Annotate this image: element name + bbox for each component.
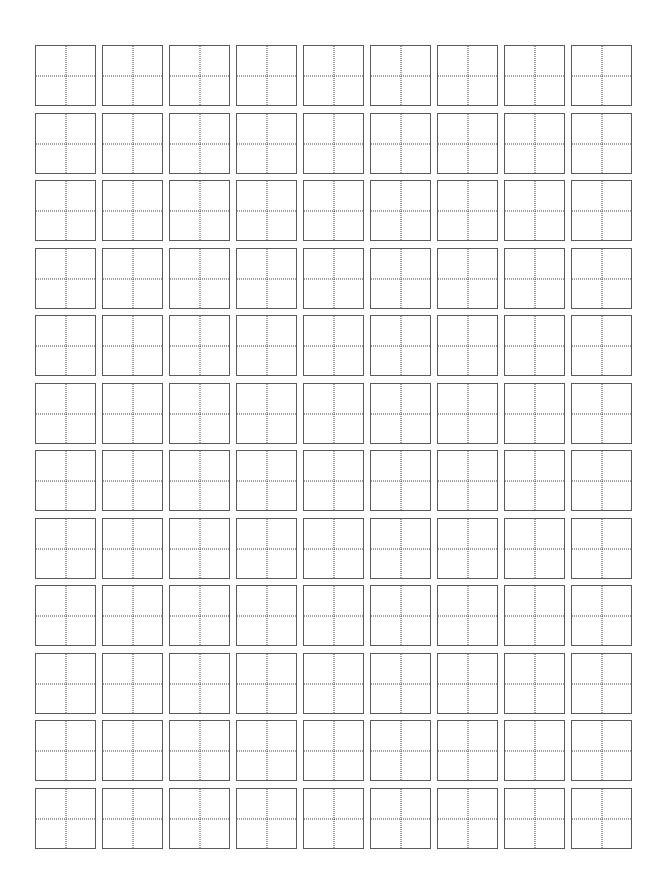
horizontal-guide-line <box>371 615 430 616</box>
horizontal-guide-line <box>103 750 162 751</box>
practice-cell <box>35 383 96 444</box>
practice-cell <box>102 113 163 174</box>
horizontal-guide-line <box>572 750 631 751</box>
horizontal-guide-line <box>572 345 631 346</box>
horizontal-guide-line <box>103 480 162 481</box>
horizontal-guide-line <box>438 75 497 76</box>
practice-cell <box>437 45 498 106</box>
horizontal-guide-line <box>170 210 229 211</box>
practice-cell <box>236 788 297 849</box>
practice-cell <box>303 113 364 174</box>
horizontal-guide-line <box>371 683 430 684</box>
horizontal-guide-line <box>36 345 95 346</box>
practice-cell <box>236 45 297 106</box>
practice-cell <box>303 45 364 106</box>
practice-cell <box>102 315 163 376</box>
practice-cell <box>504 315 565 376</box>
practice-cell <box>35 653 96 714</box>
practice-cell <box>437 180 498 241</box>
horizontal-guide-line <box>170 345 229 346</box>
horizontal-guide-line <box>36 750 95 751</box>
horizontal-guide-line <box>36 480 95 481</box>
horizontal-guide-line <box>237 750 296 751</box>
horizontal-guide-line <box>170 75 229 76</box>
horizontal-guide-line <box>371 548 430 549</box>
practice-cell <box>169 720 230 781</box>
practice-cell <box>370 788 431 849</box>
horizontal-guide-line <box>438 683 497 684</box>
horizontal-guide-line <box>505 75 564 76</box>
horizontal-guide-line <box>103 683 162 684</box>
horizontal-guide-line <box>36 413 95 414</box>
practice-cell <box>437 113 498 174</box>
practice-cell <box>571 788 632 849</box>
horizontal-guide-line <box>36 548 95 549</box>
practice-cell <box>370 180 431 241</box>
horizontal-guide-line <box>505 750 564 751</box>
practice-cell <box>370 45 431 106</box>
horizontal-guide-line <box>237 345 296 346</box>
practice-cell <box>236 383 297 444</box>
horizontal-guide-line <box>237 818 296 819</box>
horizontal-guide-line <box>304 413 363 414</box>
practice-cell <box>169 45 230 106</box>
horizontal-guide-line <box>438 345 497 346</box>
horizontal-guide-line <box>572 75 631 76</box>
practice-cell <box>169 248 230 309</box>
horizontal-guide-line <box>36 75 95 76</box>
horizontal-guide-line <box>103 615 162 616</box>
practice-cell <box>504 653 565 714</box>
practice-cell <box>303 180 364 241</box>
horizontal-guide-line <box>371 750 430 751</box>
practice-cell <box>169 450 230 511</box>
horizontal-guide-line <box>505 413 564 414</box>
horizontal-guide-line <box>170 480 229 481</box>
horizontal-guide-line <box>36 210 95 211</box>
practice-cell <box>236 450 297 511</box>
practice-cell <box>303 720 364 781</box>
practice-cell <box>169 383 230 444</box>
horizontal-guide-line <box>304 345 363 346</box>
horizontal-guide-line <box>304 75 363 76</box>
practice-cell <box>35 720 96 781</box>
practice-cell <box>504 383 565 444</box>
horizontal-guide-line <box>371 143 430 144</box>
practice-cell <box>370 720 431 781</box>
horizontal-guide-line <box>505 683 564 684</box>
horizontal-guide-line <box>170 818 229 819</box>
horizontal-guide-line <box>170 615 229 616</box>
horizontal-guide-line <box>505 143 564 144</box>
practice-cell <box>35 518 96 579</box>
horizontal-guide-line <box>103 278 162 279</box>
practice-cell <box>169 315 230 376</box>
horizontal-guide-line <box>170 143 229 144</box>
practice-cell <box>35 585 96 646</box>
practice-cell <box>504 788 565 849</box>
horizontal-guide-line <box>170 548 229 549</box>
practice-cell <box>169 585 230 646</box>
practice-cell <box>370 113 431 174</box>
horizontal-guide-line <box>237 480 296 481</box>
practice-cell <box>504 248 565 309</box>
practice-cell <box>370 383 431 444</box>
horizontal-guide-line <box>438 548 497 549</box>
horizontal-guide-line <box>103 548 162 549</box>
horizontal-guide-line <box>438 818 497 819</box>
practice-cell <box>504 720 565 781</box>
practice-cell <box>571 450 632 511</box>
practice-cell <box>504 450 565 511</box>
practice-cell <box>303 585 364 646</box>
practice-cell <box>236 315 297 376</box>
horizontal-guide-line <box>237 278 296 279</box>
horizontal-guide-line <box>438 210 497 211</box>
horizontal-guide-line <box>371 210 430 211</box>
practice-cell <box>437 720 498 781</box>
horizontal-guide-line <box>505 615 564 616</box>
horizontal-guide-line <box>103 818 162 819</box>
practice-cell <box>571 653 632 714</box>
practice-grid <box>0 0 664 895</box>
practice-cell <box>169 180 230 241</box>
practice-cell <box>437 450 498 511</box>
horizontal-guide-line <box>304 615 363 616</box>
practice-cell <box>236 585 297 646</box>
